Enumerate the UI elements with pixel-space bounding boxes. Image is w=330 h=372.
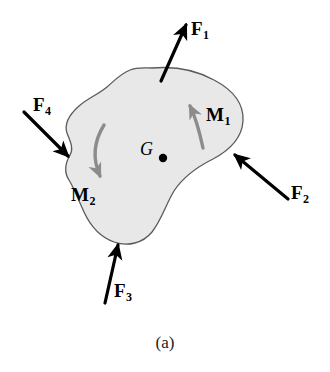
force-symbol-f3: F — [114, 280, 126, 301]
force-subscript-f3: 3 — [126, 290, 132, 304]
center-of-mass-dot — [159, 154, 167, 162]
center-of-mass-label: G — [140, 140, 153, 158]
force-arrow-f4 — [24, 112, 68, 156]
force-label-f1: F1 — [191, 19, 209, 38]
force-label-f2: F2 — [291, 183, 309, 202]
force-label-f4: F4 — [33, 95, 51, 114]
force-subscript-f1: 1 — [203, 28, 209, 42]
moment-symbol-m1: M — [206, 104, 224, 125]
diagram-canvas — [0, 0, 330, 372]
rigid-body-force-diagram: F1 F2 F3 F4 M1 M2 G (a) — [0, 0, 330, 372]
force-label-f3: F3 — [114, 281, 132, 300]
moment-label-m2: M2 — [71, 185, 95, 204]
force-subscript-f2: 2 — [303, 192, 309, 206]
rigid-body-shape — [66, 68, 243, 245]
moment-symbol-m2: M — [71, 184, 89, 205]
moment-subscript-m2: 2 — [89, 194, 95, 208]
moment-subscript-m1: 1 — [224, 114, 230, 128]
force-arrow-f2 — [235, 155, 288, 199]
force-symbol-f1: F — [191, 18, 203, 39]
figure-caption: (a) — [0, 333, 330, 353]
force-subscript-f4: 4 — [45, 104, 51, 118]
moment-label-m1: M1 — [206, 105, 230, 124]
force-symbol-f4: F — [33, 94, 45, 115]
force-symbol-f2: F — [291, 182, 303, 203]
